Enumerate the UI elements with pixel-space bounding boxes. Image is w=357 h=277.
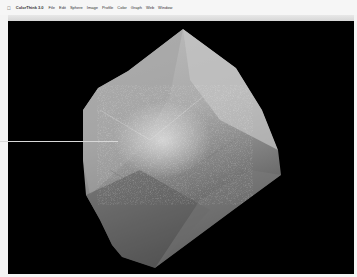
menu-image[interactable]: Image [87,5,98,10]
apple-icon[interactable]:  [7,5,11,11]
menu-color[interactable]: Color [117,5,127,10]
menu-edit[interactable]: Edit [59,5,66,10]
menu-bar:  ColorThink 3.0 File Edit Sphere Image … [0,0,357,15]
menu-web[interactable]: Web [146,5,154,10]
window-left-border [0,15,8,277]
menu-window[interactable]: Window [158,5,172,10]
graph-canvas[interactable] [8,21,354,274]
menu-graph[interactable]: Graph [131,5,142,10]
pointer-line [0,141,118,142]
menu-app-name[interactable]: ColorThink 3.0 [16,5,44,10]
menu-profile[interactable]: Profile [102,5,113,10]
menu-file[interactable]: File [49,5,55,10]
menu-sphere[interactable]: Sphere [70,5,83,10]
gamut-hull-3d[interactable] [8,21,354,274]
